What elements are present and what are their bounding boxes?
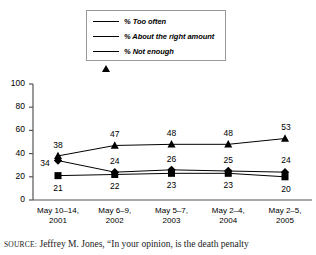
x-tick-label-3: May 2–4,2004 bbox=[196, 206, 260, 226]
x-tick-label-2: May 5–7,2003 bbox=[140, 206, 204, 226]
data-label-1-3: 25 bbox=[217, 156, 239, 165]
legend-item-not-enough: % Not enough bbox=[93, 45, 174, 58]
y-tick-60: 60 bbox=[3, 125, 25, 134]
source-text: Jeffrey M. Jones, “In your opinion, is t… bbox=[37, 239, 249, 249]
x-tick-label-4: May 2–5,2005 bbox=[253, 206, 316, 226]
y-tick-80: 80 bbox=[3, 102, 25, 111]
data-label-1-1: 24 bbox=[104, 157, 126, 166]
x-tick-label-0: May 10–14,2001 bbox=[26, 206, 90, 226]
data-label-0-3: 23 bbox=[217, 181, 239, 190]
data-label-2-0: 38 bbox=[47, 141, 69, 150]
data-label-2-4: 53 bbox=[275, 123, 297, 132]
y-tick-20: 20 bbox=[3, 172, 25, 181]
square-marker-icon bbox=[93, 16, 119, 27]
data-label-0-1: 22 bbox=[104, 182, 126, 191]
source-prefix: SOURCE: bbox=[4, 240, 37, 249]
legend-label-too-often: % Too often bbox=[124, 17, 166, 26]
data-label-2-3: 48 bbox=[217, 129, 239, 138]
legend-label-not-enough: % Not enough bbox=[124, 47, 174, 56]
data-label-2-2: 48 bbox=[161, 129, 183, 138]
legend-label-about-right: % About the right amount bbox=[124, 32, 214, 41]
data-label-1-0: 34 bbox=[34, 159, 56, 168]
source-note: SOURCE: Jeffrey M. Jones, “In your opini… bbox=[4, 238, 314, 251]
diamond-marker-icon bbox=[93, 31, 119, 42]
data-label-1-4: 24 bbox=[275, 156, 297, 165]
y-tick-40: 40 bbox=[3, 149, 25, 158]
data-label-2-1: 47 bbox=[104, 130, 126, 139]
data-label-0-4: 20 bbox=[275, 185, 297, 194]
chart-legend: % Too often % About the right amount % N… bbox=[86, 10, 226, 61]
y-tick-100: 100 bbox=[3, 79, 25, 88]
data-label-1-2: 26 bbox=[161, 155, 183, 164]
line-chart: 020406080100 May 10–14,2001May 6–9,2002M… bbox=[0, 72, 316, 232]
legend-item-too-often: % Too often bbox=[93, 15, 166, 28]
y-tick-0: 0 bbox=[3, 195, 25, 204]
legend-item-about-right: % About the right amount bbox=[93, 30, 214, 43]
data-label-0-2: 23 bbox=[161, 181, 183, 190]
x-tick-label-1: May 6–9,2002 bbox=[83, 206, 147, 226]
triangle-marker-icon bbox=[93, 46, 119, 57]
data-label-0-0: 21 bbox=[47, 184, 69, 193]
